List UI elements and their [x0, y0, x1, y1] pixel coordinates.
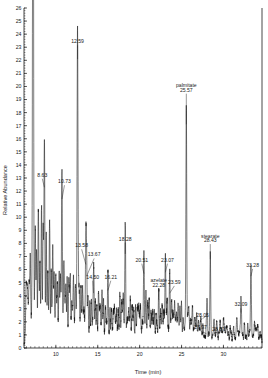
- y-tick-label: 22: [16, 57, 22, 63]
- chromatogram-figure: 0123456789101112131415161718192021222324…: [0, 0, 268, 378]
- y-tick-label: 20: [16, 83, 22, 89]
- x-tick-label: 30: [221, 351, 227, 357]
- y-tick-label: 13: [16, 175, 22, 181]
- chart-canvas: 0123456789101112131415161718192021222324…: [0, 0, 268, 378]
- peak-rt-label: 28.87: [212, 326, 225, 332]
- y-tick-label: 18: [16, 110, 22, 116]
- peak-annotation: 28.87: [212, 326, 225, 333]
- x-tick-label: 10: [53, 351, 59, 357]
- peak-rt-label: 8.63: [37, 172, 47, 178]
- y-tick-label: 21: [16, 70, 22, 76]
- x-tick-label: 20: [137, 351, 143, 357]
- peak-rt-label: 32.09: [235, 301, 248, 307]
- y-tick-label: 10: [16, 214, 22, 220]
- y-tick-label: 24: [16, 31, 22, 37]
- y-axis-title: Relative Abundance: [2, 165, 8, 215]
- y-tick-label: 25: [16, 18, 22, 24]
- y-tick-label: 7: [19, 253, 22, 259]
- y-tick-label: 14: [16, 162, 22, 168]
- y-tick-label: 6: [19, 266, 22, 272]
- y-tick-label: 3: [19, 306, 22, 312]
- peak-rt-label: 27.97: [194, 324, 207, 330]
- y-tick-label: 15: [16, 149, 22, 155]
- y-tick-label: 4: [19, 293, 22, 299]
- y-tick-label: 5: [19, 280, 22, 286]
- x-tick-label: 25: [179, 351, 185, 357]
- peak-rt-label: 28.05: [196, 312, 209, 318]
- x-tick-label: 15: [95, 351, 101, 357]
- y-tick-label: 1: [19, 332, 22, 338]
- y-tick-label: 11: [16, 201, 21, 207]
- peak-rt-label: 20.51: [135, 257, 148, 263]
- y-tick-label: 0: [19, 345, 22, 351]
- x-axis-title: Time (min): [135, 369, 162, 375]
- peak-rt-label: 22.28: [152, 282, 165, 288]
- y-tick-label: 2: [19, 319, 22, 325]
- peak-rt-label: 12.59: [71, 38, 84, 44]
- y-tick-label: 17: [16, 123, 22, 129]
- y-tick-label: 23: [16, 44, 22, 50]
- y-tick-label: 12: [16, 188, 22, 194]
- y-tick-label: 16: [16, 136, 22, 142]
- peak-rt-label: 13.67: [88, 251, 101, 257]
- peak-rt-label: 23.59: [168, 279, 181, 285]
- peak-rt-label: 23.07: [161, 257, 174, 263]
- y-tick-label: 9: [19, 227, 22, 233]
- y-tick-label: 8: [19, 240, 22, 246]
- peak-rt-label: 14.50: [86, 274, 99, 280]
- peak-rt-label: 33.28: [246, 262, 259, 268]
- peak-annotation: 28.05: [196, 312, 209, 319]
- peak-rt-label: 28.43: [204, 237, 217, 243]
- peak-rt-label: 13.58: [75, 242, 88, 248]
- peak-rt-label: 16.21: [104, 274, 117, 280]
- peak-rt-label: 25.57: [180, 87, 193, 93]
- peak-rt-label: 18.28: [119, 236, 132, 242]
- peak-rt-label: 10.73: [58, 178, 71, 184]
- y-tick-label: 26: [16, 5, 22, 11]
- y-tick-label: 19: [16, 96, 22, 102]
